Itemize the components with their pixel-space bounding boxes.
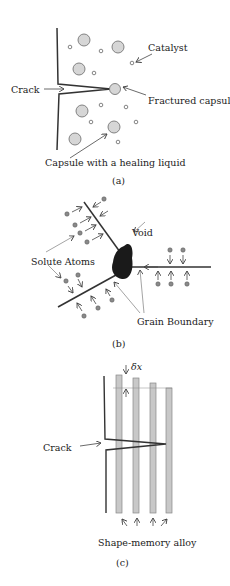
label-solute-atoms: Solute Atoms xyxy=(31,256,95,267)
catalyst-particles xyxy=(68,45,138,144)
panel-c: δx Crack Shape-memory alloy (c) xyxy=(43,361,197,568)
label-capsule-healing: Capsule with a healing liquid xyxy=(45,157,186,168)
catalyst-arrow xyxy=(136,54,152,62)
label-grain-boundary: Grain Boundary xyxy=(137,316,214,327)
fractured-capsule-arrow xyxy=(123,87,146,95)
label-crack-c: Crack xyxy=(43,442,72,453)
label-fractured-capsule: Fractured capsule xyxy=(148,95,230,106)
capsules-large xyxy=(69,34,124,145)
panel-a: Catalyst Crack Fractured capsule Capsule… xyxy=(11,28,230,186)
panel-b: Void Solute Atoms Grain Boundary (b) xyxy=(31,197,214,349)
label-delta-x: δx xyxy=(131,361,143,372)
grain-boundary-upper xyxy=(84,202,120,252)
label-shape-memory-alloy: Shape-memory alloy xyxy=(98,537,197,548)
caption-c: (c) xyxy=(116,557,129,568)
recovery-arrows xyxy=(122,518,167,526)
void-shape xyxy=(112,244,133,279)
caption-b: (b) xyxy=(112,338,126,349)
self-healing-diagram: Catalyst Crack Fractured capsule Capsule… xyxy=(0,0,230,586)
label-catalyst: Catalyst xyxy=(148,42,188,53)
crack-arrow-c xyxy=(80,443,101,446)
label-void: Void xyxy=(131,227,153,238)
caption-a: (a) xyxy=(112,175,125,186)
label-crack-a: Crack xyxy=(11,84,40,95)
